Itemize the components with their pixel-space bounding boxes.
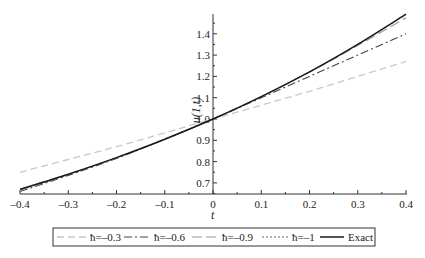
y-tick-label: 0.8 (196, 156, 210, 168)
legend-label: ħ=–0.3 (90, 231, 121, 243)
x-tick-label: 0.2 (303, 198, 317, 210)
y-tick-label: 1.3 (196, 49, 210, 61)
legend-label: ħ=–0.6 (154, 231, 185, 243)
legend-label: Exact (348, 231, 373, 243)
legend-label: ħ=–0.9 (222, 231, 253, 243)
x-tick-label: 0.4 (399, 198, 413, 210)
x-tick-label: 0.1 (254, 198, 268, 210)
x-tick-label: –0.2 (106, 198, 126, 210)
y-tick-label: 0.7 (196, 177, 210, 189)
x-tick-label: –0.1 (154, 198, 174, 210)
y-tick-label: 1.2 (196, 70, 210, 82)
x-tick-label: 0.3 (351, 198, 365, 210)
x-tick-label: –0.4 (9, 198, 30, 210)
x-tick-label: –0.3 (58, 198, 79, 210)
x-ticks: –0.4–0.3–0.2–0.100.10.20.30.4 (9, 190, 413, 210)
x-axis-title: t (211, 208, 215, 222)
legend-label: ħ=–1 (292, 231, 315, 243)
chart-canvas: –0.4–0.3–0.2–0.100.10.20.30.4 0.70.80.91… (0, 0, 425, 258)
y-tick-label: 0.9 (196, 134, 210, 146)
y-tick-label: 1.4 (196, 28, 210, 40)
y-axis-title: u(1,t) (189, 97, 203, 123)
